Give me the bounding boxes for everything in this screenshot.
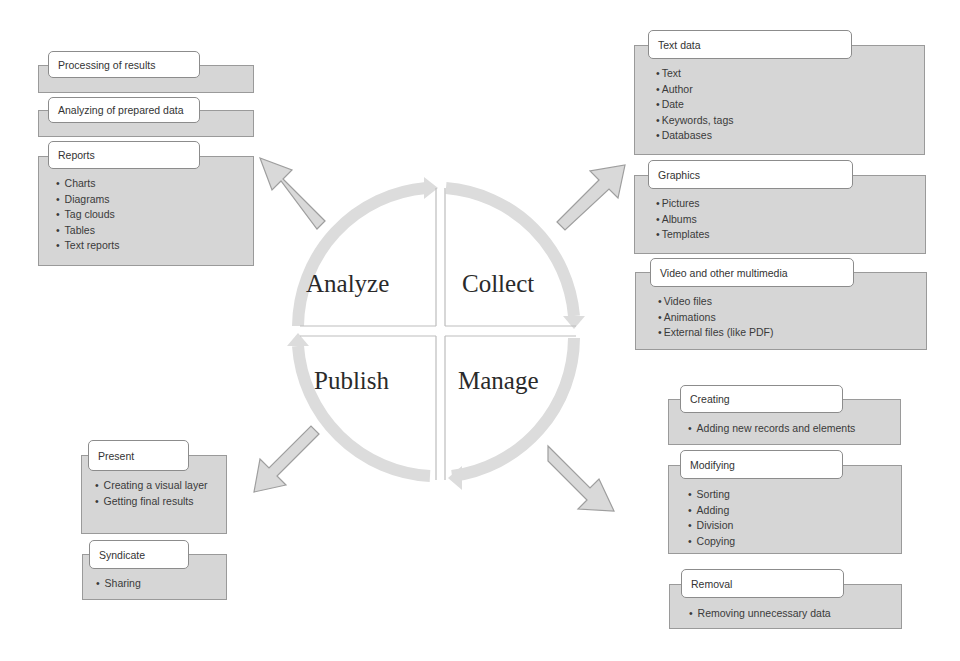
list-text-data: Text Author Date Keywords, tags Database… bbox=[656, 66, 733, 144]
list-present: Creating a visual layer Getting final re… bbox=[95, 478, 223, 509]
label-syndicate: Syndicate bbox=[89, 540, 189, 569]
list-item: Adding new records and elements bbox=[688, 421, 855, 437]
list-item: Charts bbox=[56, 176, 119, 192]
ring-arc-publish bbox=[298, 346, 430, 476]
list-item: Division bbox=[688, 518, 735, 534]
list-item: External files (like PDF) bbox=[658, 325, 773, 341]
label-video-multimedia: Video and other multimedia bbox=[650, 258, 854, 287]
label-present: Present bbox=[88, 440, 189, 471]
arrow-to-manage-group bbox=[548, 446, 614, 511]
list-item: Pictures bbox=[656, 196, 710, 212]
list-item: Getting final results bbox=[95, 494, 223, 510]
list-item: Creating a visual layer bbox=[95, 478, 223, 494]
list-item: Tag clouds bbox=[56, 207, 119, 223]
label-modifying: Modifying bbox=[680, 450, 843, 479]
list-item: Date bbox=[656, 97, 733, 113]
list-item: Author bbox=[656, 82, 733, 98]
phase-label-manage: Manage bbox=[458, 367, 539, 395]
list-item: Sorting bbox=[688, 487, 735, 503]
label-processing-of-results: Processing of results bbox=[48, 51, 200, 78]
list-item: Albums bbox=[656, 212, 710, 228]
label-graphics: Graphics bbox=[648, 160, 853, 189]
list-item: Tables bbox=[56, 223, 119, 239]
list-item: Databases bbox=[656, 128, 733, 144]
arrowhead-to-analyze bbox=[287, 333, 309, 346]
phase-label-publish: Publish bbox=[314, 367, 389, 395]
phase-label-collect: Collect bbox=[462, 270, 534, 298]
list-item: Video files bbox=[658, 294, 773, 310]
list-creating: Adding new records and elements bbox=[688, 421, 855, 437]
list-video-multimedia: Video files Animations External files (l… bbox=[658, 294, 773, 341]
list-item: Removing unnecessary data bbox=[689, 606, 831, 622]
label-analyzing-of-prepared-data: Analyzing of prepared data bbox=[48, 97, 200, 123]
phase-label-analyze: Analyze bbox=[306, 270, 389, 298]
list-syndicate: Sharing bbox=[96, 576, 141, 592]
list-item: Keywords, tags bbox=[656, 113, 733, 129]
list-item: Sharing bbox=[96, 576, 141, 592]
label-creating: Creating bbox=[680, 385, 843, 413]
list-item: Diagrams bbox=[56, 192, 119, 208]
ring-arc-analyze bbox=[298, 188, 426, 326]
list-reports: Charts Diagrams Tag clouds Tables Text r… bbox=[56, 176, 119, 254]
arrowhead-to-manage bbox=[563, 316, 585, 329]
list-removal: Removing unnecessary data bbox=[689, 606, 831, 622]
arrow-to-analyze-group bbox=[260, 158, 325, 229]
list-item: Adding bbox=[688, 503, 735, 519]
arrow-to-collect-group bbox=[557, 165, 625, 230]
list-item: Text reports bbox=[56, 238, 119, 254]
label-reports: Reports bbox=[48, 141, 200, 169]
list-item: Animations bbox=[658, 310, 773, 326]
list-graphics: Pictures Albums Templates bbox=[656, 196, 710, 243]
list-item: Text bbox=[656, 66, 733, 82]
list-item: Copying bbox=[688, 534, 735, 550]
list-item: Templates bbox=[656, 227, 710, 243]
list-modifying: Sorting Adding Division Copying bbox=[688, 487, 735, 549]
label-text-data: Text data bbox=[648, 30, 852, 59]
arrow-to-publish-group bbox=[254, 426, 319, 492]
label-removal: Removal bbox=[681, 569, 844, 598]
